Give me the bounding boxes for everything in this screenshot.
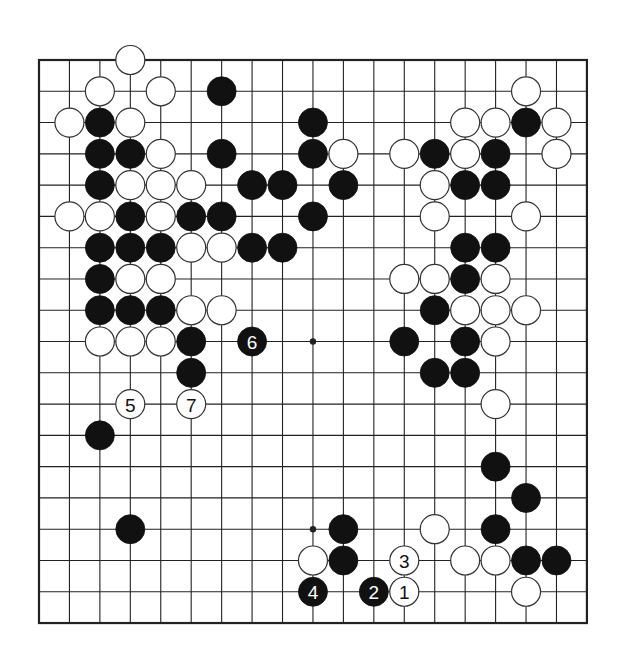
stone-icon xyxy=(298,139,327,168)
white-stone xyxy=(512,296,541,325)
stone-icon xyxy=(85,327,114,356)
white-stone xyxy=(116,46,145,75)
stone-icon xyxy=(451,296,480,325)
stone-icon xyxy=(451,139,480,168)
move-number-label: 6 xyxy=(247,332,258,353)
stone-icon xyxy=(55,202,84,231)
star-point-icon xyxy=(310,526,316,532)
stone-icon xyxy=(329,515,358,544)
black-stone-move-2: 2 xyxy=(359,577,388,606)
black-stone xyxy=(420,296,449,325)
black-stone xyxy=(85,108,114,137)
white-stone xyxy=(85,202,114,231)
white-stone xyxy=(146,327,175,356)
white-stone xyxy=(542,139,571,168)
white-stone xyxy=(298,546,327,575)
white-stone xyxy=(481,390,510,419)
black-stone xyxy=(451,171,480,200)
black-stone xyxy=(207,77,236,106)
stone-icon xyxy=(481,327,510,356)
stone-icon xyxy=(390,264,419,293)
move-number-label: 5 xyxy=(125,395,136,416)
stone-icon xyxy=(146,171,175,200)
white-stone xyxy=(451,296,480,325)
stone-icon xyxy=(481,390,510,419)
stone-icon xyxy=(420,264,449,293)
stone-icon xyxy=(451,171,480,200)
stone-icon xyxy=(420,358,449,387)
stone-icon xyxy=(116,202,145,231)
white-stone xyxy=(116,327,145,356)
black-stone xyxy=(268,233,297,262)
stone-icon xyxy=(85,421,114,450)
stone-icon xyxy=(177,233,206,262)
black-stone xyxy=(85,421,114,450)
black-stone xyxy=(451,358,480,387)
stone-icon xyxy=(116,264,145,293)
white-stone-move-5: 5 xyxy=(116,390,145,419)
black-stone xyxy=(481,233,510,262)
stone-icon xyxy=(481,139,510,168)
black-stone xyxy=(298,108,327,137)
black-stone xyxy=(542,546,571,575)
white-stone xyxy=(420,264,449,293)
stone-icon xyxy=(451,358,480,387)
stone-icon xyxy=(481,264,510,293)
stone-icon xyxy=(542,546,571,575)
stone-icon xyxy=(481,452,510,481)
white-stone xyxy=(481,296,510,325)
black-stone xyxy=(207,202,236,231)
black-stone xyxy=(329,171,358,200)
stone-icon xyxy=(451,546,480,575)
white-stone xyxy=(116,171,145,200)
white-stone xyxy=(390,264,419,293)
stone-icon xyxy=(116,515,145,544)
black-stone xyxy=(268,171,297,200)
black-stone xyxy=(512,483,541,512)
black-stone xyxy=(451,233,480,262)
stone-icon xyxy=(207,77,236,106)
move-number-label: 3 xyxy=(399,551,410,572)
stone-icon xyxy=(512,577,541,606)
move-number-label: 1 xyxy=(399,582,410,603)
black-stone xyxy=(177,327,206,356)
black-stone xyxy=(481,139,510,168)
white-stone xyxy=(451,108,480,137)
black-stone xyxy=(298,139,327,168)
stone-icon xyxy=(420,515,449,544)
stone-icon xyxy=(116,171,145,200)
stone-icon xyxy=(329,139,358,168)
white-stone xyxy=(542,108,571,137)
stone-icon xyxy=(542,139,571,168)
stone-icon xyxy=(146,139,175,168)
black-stone xyxy=(85,139,114,168)
stone-icon xyxy=(329,171,358,200)
stone-icon xyxy=(420,171,449,200)
black-stone xyxy=(390,327,419,356)
black-stone xyxy=(146,296,175,325)
black-stone xyxy=(116,296,145,325)
stone-icon xyxy=(85,139,114,168)
stone-icon xyxy=(420,202,449,231)
black-stone xyxy=(298,202,327,231)
stone-icon xyxy=(85,296,114,325)
black-stone xyxy=(481,452,510,481)
move-number-label: 4 xyxy=(308,582,319,603)
stone-icon xyxy=(146,296,175,325)
black-stone xyxy=(116,515,145,544)
stone-icon xyxy=(146,77,175,106)
go-board: 6573421 xyxy=(0,0,627,668)
stone-icon xyxy=(481,233,510,262)
stone-icon xyxy=(116,46,145,75)
stone-icon xyxy=(55,108,84,137)
stone-icon xyxy=(298,108,327,137)
black-stone xyxy=(238,233,267,262)
black-stone xyxy=(85,264,114,293)
white-stone xyxy=(177,233,206,262)
white-stone xyxy=(481,108,510,137)
black-stone xyxy=(451,264,480,293)
white-stone xyxy=(177,296,206,325)
stone-icon xyxy=(390,327,419,356)
stone-icon xyxy=(177,171,206,200)
black-stone xyxy=(85,233,114,262)
